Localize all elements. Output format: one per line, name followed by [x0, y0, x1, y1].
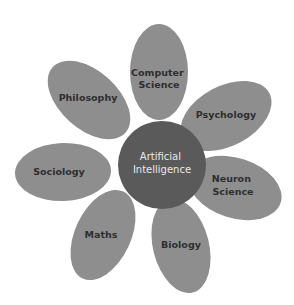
- label-philosophy: Philosophy: [59, 92, 119, 103]
- label-biology: Biology: [161, 239, 202, 250]
- label-psychology: Psychology: [196, 109, 257, 120]
- label-computer-science: Computer Science: [131, 67, 187, 90]
- ai-flower-diagram: Computer Science Psychology Neuron Scien…: [0, 0, 294, 305]
- label-maths: Maths: [85, 229, 118, 240]
- label-sociology: Sociology: [33, 166, 85, 177]
